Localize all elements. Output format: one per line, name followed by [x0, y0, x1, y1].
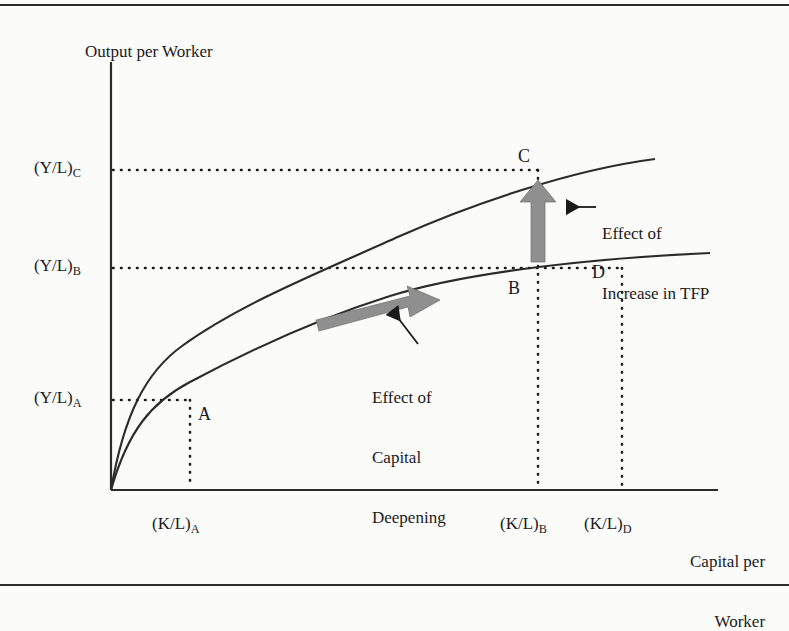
y-axis-title-text: Output per Worker — [85, 42, 213, 61]
point-label-c: C — [518, 146, 530, 167]
y-tick-label-a: (Y/L)A — [34, 388, 82, 411]
block-arrow-tfp-increase — [520, 180, 556, 262]
annotation-tfp: Effect of Increase in TFP — [602, 184, 709, 344]
y-tick-label-a-sub: A — [73, 396, 82, 410]
y-axis-title: Output per Worker — [68, 22, 213, 82]
annotation-capital-line2: Capital — [372, 448, 446, 468]
y-tick-label-c-base: (Y/L) — [34, 158, 73, 177]
x-tick-label-d: (K/L)D — [584, 514, 632, 537]
y-tick-label-b-sub: B — [73, 264, 81, 278]
block-arrow-capital-deepening — [316, 286, 440, 331]
annotation-capital-deepening: Effect of Capital Deepening — [372, 348, 446, 569]
annotation-capital-line3: Deepening — [372, 508, 446, 528]
x-axis-title-line2: Worker — [690, 612, 765, 631]
annotation-leaders — [392, 207, 596, 344]
x-axis-title-line1: Capital per — [690, 552, 765, 572]
annotation-tfp-line1: Effect of — [602, 224, 709, 244]
y-tick-label-b: (Y/L)B — [34, 256, 81, 279]
x-tick-label-b-sub: B — [539, 522, 547, 536]
x-tick-label-a-base: (K/L) — [152, 514, 191, 533]
point-label-b: B — [508, 278, 520, 299]
y-tick-label-a-base: (Y/L) — [34, 388, 73, 407]
annotation-capital-line1: Effect of — [372, 388, 446, 408]
x-tick-label-b-base: (K/L) — [500, 514, 539, 533]
x-tick-label-a-sub: A — [191, 522, 200, 536]
point-label-a: A — [198, 404, 211, 425]
y-tick-label-c: (Y/L)C — [34, 158, 81, 181]
x-axis-title: Capital per Worker — [690, 512, 765, 631]
y-tick-label-b-base: (Y/L) — [34, 256, 73, 275]
x-tick-label-d-sub: D — [623, 522, 632, 536]
y-tick-label-c-sub: C — [73, 166, 81, 180]
x-tick-label-a: (K/L)A — [152, 514, 200, 537]
guide-lines — [113, 170, 622, 488]
x-tick-label-b: (K/L)B — [500, 514, 547, 537]
leader-line-capital-deepening — [392, 310, 418, 344]
x-tick-label-d-base: (K/L) — [584, 514, 623, 533]
annotation-tfp-line2: Increase in TFP — [602, 284, 709, 304]
